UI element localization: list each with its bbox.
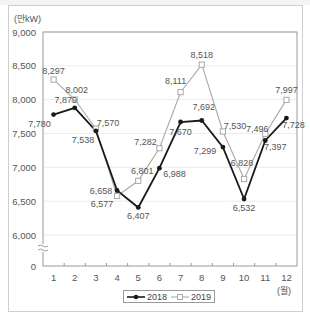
x-axis-unit-label: (월) <box>277 284 291 297</box>
data-point-2019 <box>241 176 246 181</box>
data-point-2019 <box>136 178 141 183</box>
data-label-2019: 6,577 <box>91 199 114 209</box>
data-label-2018: 6,407 <box>127 211 150 221</box>
hollow-square-marker-icon <box>171 293 189 301</box>
y-tick-label: 6,000 <box>12 230 36 241</box>
line-chart: 9,0008,5008,0007,5007,0006,5006,00001234… <box>0 0 310 320</box>
data-label-2018: 7,670 <box>169 127 192 137</box>
data-point-2019 <box>178 90 183 95</box>
data-point-2018 <box>51 112 56 117</box>
x-tick-label: 10 <box>239 272 250 283</box>
filled-circle-marker-icon <box>127 293 145 301</box>
y-tick-label: 7,000 <box>12 162 36 173</box>
x-tick-label: 8 <box>199 272 204 283</box>
data-point-2019 <box>199 62 204 67</box>
y-tick-label: 9,000 <box>12 27 36 38</box>
data-label-2018: 7,780 <box>28 119 51 129</box>
data-label-2019: 7,496 <box>246 124 269 134</box>
data-label-2018: 7,397 <box>264 142 287 152</box>
data-label-2019: 6,828 <box>231 158 254 168</box>
data-point-2019 <box>284 97 289 102</box>
y-tick-label: 8,000 <box>12 94 36 105</box>
data-label-2018: 7,879 <box>54 95 77 105</box>
data-point-2019 <box>157 146 162 151</box>
legend-item-2019: 2019 <box>171 292 211 302</box>
x-tick-label: 12 <box>281 272 292 283</box>
legend-label-2018: 2018 <box>147 292 167 302</box>
data-point-2018 <box>178 120 183 125</box>
y-tick-label: 6,500 <box>12 196 36 207</box>
data-point-2018 <box>115 188 120 193</box>
y-tick-label: 0 <box>31 261 36 272</box>
data-point-2018 <box>221 145 226 150</box>
data-label-2019: 8,518 <box>190 50 213 60</box>
data-point-2018 <box>94 129 99 134</box>
legend-item-2018: 2018 <box>127 292 167 302</box>
data-label-2019: 7,282 <box>134 137 157 147</box>
data-point-2018 <box>157 166 162 171</box>
x-tick-label: 1 <box>51 272 56 283</box>
y-tick-label: 7,500 <box>12 128 36 139</box>
x-tick-label: 6 <box>157 272 162 283</box>
data-label-2018: 6,658 <box>90 186 113 196</box>
data-label-2018: 6,532 <box>233 203 256 213</box>
data-point-2018 <box>136 205 141 210</box>
data-label-2019: 6,801 <box>131 166 154 176</box>
data-label-2018: 7,728 <box>282 120 305 130</box>
legend-label-2019: 2019 <box>191 292 211 302</box>
x-tick-label: 2 <box>72 272 77 283</box>
data-label-2018: 7,692 <box>192 102 215 112</box>
data-label-2019: 8,002 <box>65 85 88 95</box>
data-label-2019: 7,570 <box>97 118 120 128</box>
data-label-2019: 7,997 <box>275 85 298 95</box>
data-point-2018 <box>242 197 247 202</box>
x-tick-label: 4 <box>114 272 119 283</box>
data-label-2019: 8,111 <box>165 76 186 86</box>
x-tick-label: 3 <box>93 272 98 283</box>
data-label-2018: 7,538 <box>72 135 95 145</box>
legend: 2018 2019 <box>123 290 215 303</box>
data-label-2018: 6,988 <box>163 169 186 179</box>
plot-area <box>43 32 297 266</box>
data-point-2018 <box>199 118 204 123</box>
data-label-2019: 8,297 <box>42 66 65 76</box>
y-tick-label: 8,500 <box>12 60 36 71</box>
data-point-2019 <box>51 77 56 82</box>
x-tick-label: 7 <box>178 272 183 283</box>
data-point-2018 <box>72 105 77 110</box>
x-tick-label: 5 <box>136 272 141 283</box>
x-tick-label: 11 <box>260 272 270 283</box>
x-tick-label: 9 <box>220 272 225 283</box>
data-label-2018: 7,299 <box>194 146 217 156</box>
data-label-2019: 7,530 <box>224 121 247 131</box>
data-point-2019 <box>114 193 119 198</box>
